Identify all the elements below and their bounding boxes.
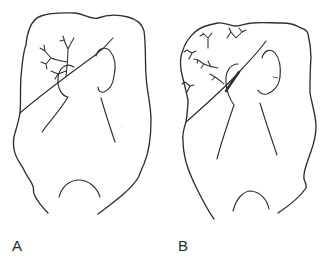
left-hook-a [42,65,74,132]
line-overlap-b [226,72,239,91]
panel-b-drawing [180,23,316,219]
right-hook-b [258,50,280,94]
organ-outline-a [13,13,151,214]
panel-a-drawing [13,13,151,214]
branch-twig-b1 [200,33,212,48]
branch-twig-b5 [210,74,224,84]
right-hook-tail-a [101,98,115,142]
bottom-dome-b [233,191,269,211]
right-hook-tail-b [260,103,277,155]
small-tick-b [273,77,278,78]
figure-canvas: A B [0,0,326,263]
stray-dot-a [121,126,122,127]
bottom-dome-a [59,180,100,197]
panel-b-label: B [178,237,189,254]
branch-twig-b3 [184,50,196,59]
branch-twig-a [40,36,74,79]
panel-a-label: A [12,237,23,254]
branch-twig-b2 [227,28,246,38]
branch-twig-b4 [194,59,218,68]
right-hook-a [96,48,115,92]
organ-outline-b [180,23,316,219]
two-panel-anatomical-diagram: A B [0,0,326,263]
